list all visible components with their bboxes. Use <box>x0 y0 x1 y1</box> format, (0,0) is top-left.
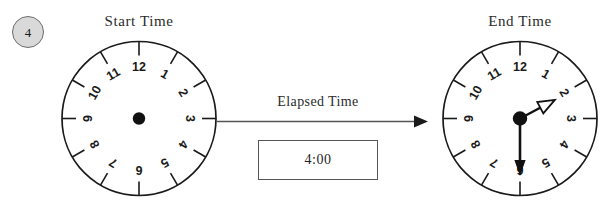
end-numeral-4: 4 <box>556 138 572 151</box>
elapsed-time-answer-value: 4:00 <box>305 152 332 168</box>
start-numeral-8: 8 <box>87 138 103 151</box>
start-numeral-3: 3 <box>183 115 197 122</box>
start-numeral-6: 6 <box>135 163 142 177</box>
elapsed-time-arrow <box>214 112 432 132</box>
elapsed-time-answer-box[interactable]: 4:00 <box>258 140 378 180</box>
end-numeral-8: 8 <box>468 138 484 151</box>
end-numeral-1: 1 <box>539 66 552 82</box>
hour-hand-arrowhead-icon <box>537 94 558 113</box>
end-numeral-12: 12 <box>513 60 527 74</box>
elapsed-time-label: Elapsed Time <box>256 94 380 110</box>
end-numeral-5: 5 <box>539 155 552 171</box>
start-numeral-10: 10 <box>85 83 104 102</box>
start-numeral-5: 5 <box>158 155 171 171</box>
end-clock-face: 12 1 2 3 4 5 6 7 8 9 10 11 <box>437 40 603 207</box>
start-time-label: Start Time <box>69 13 209 30</box>
worksheet-problem: 4 Start Time <box>0 0 603 207</box>
start-clock-face: 12 1 2 3 4 5 6 7 8 9 10 11 <box>56 40 222 207</box>
start-numeral-12: 12 <box>132 60 146 74</box>
start-numeral-9: 9 <box>81 115 95 122</box>
end-clock-center-dot <box>513 111 527 125</box>
end-numeral-10: 10 <box>466 83 485 102</box>
problem-number-text: 4 <box>25 26 32 39</box>
end-numeral-7: 7 <box>488 155 501 171</box>
start-clock-center-dot <box>133 112 145 124</box>
start-numeral-4: 4 <box>175 138 191 151</box>
start-numeral-7: 7 <box>107 155 120 171</box>
end-numeral-2: 2 <box>557 86 573 99</box>
end-time-label: End Time <box>450 13 590 30</box>
end-numeral-3: 3 <box>564 115 578 122</box>
arrow-head-icon <box>414 116 428 128</box>
start-numeral-2: 2 <box>176 86 192 99</box>
end-numeral-9: 9 <box>462 115 476 122</box>
start-numeral-11: 11 <box>104 65 122 84</box>
end-numeral-11: 11 <box>485 65 503 84</box>
problem-number-badge: 4 <box>12 16 44 48</box>
start-numeral-1: 1 <box>158 66 171 82</box>
